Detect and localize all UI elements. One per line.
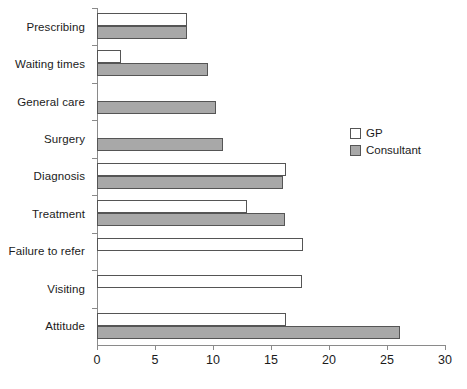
x-axis-tick: [155, 345, 156, 350]
category-label: Treatment: [32, 208, 85, 220]
category-row: Diagnosis: [97, 158, 445, 195]
x-axis-tick-label: 25: [380, 353, 394, 367]
y-axis-tick: [92, 83, 97, 84]
x-axis-tick: [97, 345, 98, 350]
legend-item-gp: GP: [350, 125, 421, 141]
x-axis-tick-label: 0: [94, 353, 101, 367]
x-axis-tick: [271, 345, 272, 350]
category-row: Prescribing: [97, 8, 445, 45]
category-rows: PrescribingWaiting timesGeneral careSurg…: [97, 8, 445, 345]
bar-consultant: [97, 176, 283, 189]
bar-consultant: [97, 326, 400, 339]
legend-label-gp: GP: [366, 127, 383, 139]
y-axis-tick: [92, 195, 97, 196]
y-axis-tick: [92, 233, 97, 234]
bar-chart: PrescribingWaiting timesGeneral careSurg…: [0, 0, 467, 389]
legend-item-consultant: Consultant: [350, 142, 421, 158]
x-axis-tick-label: 30: [438, 353, 452, 367]
x-axis-tick-label: 5: [152, 353, 159, 367]
y-axis-tick: [92, 120, 97, 121]
bar-consultant: [97, 101, 216, 114]
x-axis-tick: [213, 345, 214, 350]
x-axis-tick: [445, 345, 446, 350]
x-axis-tick-label: 20: [322, 353, 336, 367]
bar-gp: [97, 313, 286, 326]
bar-gp: [97, 275, 302, 288]
plot-area: PrescribingWaiting timesGeneral careSurg…: [97, 8, 445, 345]
bar-consultant: [97, 213, 285, 226]
category-label: Visiting: [47, 283, 85, 295]
category-row: Treatment: [97, 195, 445, 232]
category-label: Waiting times: [15, 58, 85, 70]
bar-gp: [97, 200, 247, 213]
category-label: Diagnosis: [34, 170, 85, 182]
legend: GP Consultant: [350, 125, 421, 159]
bar-consultant: [97, 26, 187, 39]
category-label: Surgery: [44, 133, 85, 145]
bar-consultant: [97, 63, 208, 76]
category-row: Attitude: [97, 308, 445, 345]
x-axis-ticks: 051015202530: [97, 345, 445, 385]
category-label: Attitude: [45, 320, 85, 332]
x-axis-tick: [329, 345, 330, 350]
consultant-swatch-icon: [350, 145, 361, 156]
category-row: General care: [97, 83, 445, 120]
category-label: General care: [17, 96, 85, 108]
category-row: Visiting: [97, 270, 445, 307]
bar-gp: [97, 13, 187, 26]
legend-label-consultant: Consultant: [366, 144, 421, 156]
category-label: Prescribing: [26, 21, 85, 33]
category-label: Failure to refer: [9, 245, 85, 257]
y-axis-tick: [92, 270, 97, 271]
bar-gp: [97, 50, 121, 63]
y-axis-tick: [92, 158, 97, 159]
bar-gp: [97, 238, 303, 251]
category-row: Failure to refer: [97, 233, 445, 270]
x-axis-tick-label: 15: [264, 353, 278, 367]
y-axis-tick: [92, 8, 97, 9]
y-axis-tick: [92, 45, 97, 46]
x-axis-tick: [387, 345, 388, 350]
category-row: Waiting times: [97, 45, 445, 82]
y-axis-tick: [92, 308, 97, 309]
bar-consultant: [97, 138, 223, 151]
bar-gp: [97, 163, 286, 176]
x-axis-tick-label: 10: [206, 353, 220, 367]
gp-swatch-icon: [350, 128, 361, 139]
